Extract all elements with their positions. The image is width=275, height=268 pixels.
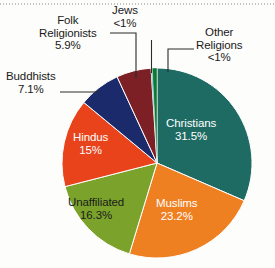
pie-label-jews: Jews <1% bbox=[112, 4, 138, 29]
pie-label-hindus-text: Hindus bbox=[73, 131, 108, 143]
pie-label-muslims: Muslims 23.2% bbox=[156, 197, 197, 223]
pie-label-buddhists-text: Buddhists bbox=[6, 70, 56, 82]
pie-label-unaffiliated-text: Unaffiliated bbox=[68, 196, 124, 208]
pie-value-hindus: 15% bbox=[73, 144, 108, 157]
pie-label-folk-religionists-line2: Religionists bbox=[39, 27, 97, 39]
pie-label-folk-religionists: Folk Religionists 5.9% bbox=[39, 14, 97, 52]
pie-label-folk-religionists-line1: Folk bbox=[57, 14, 78, 26]
pie-value-unaffiliated: 16.3% bbox=[68, 209, 124, 222]
pie-label-other-religions-line1: Other bbox=[205, 26, 233, 38]
pie-value-christians: 31.5% bbox=[166, 130, 216, 143]
pie-label-unaffiliated: Unaffiliated 16.3% bbox=[68, 196, 124, 222]
pie-label-christians-text: Christians bbox=[166, 117, 216, 129]
pie-label-muslims-text: Muslims bbox=[156, 197, 197, 209]
pie-value-folk-religionists: 5.9% bbox=[39, 39, 97, 52]
pie-label-jews-text: Jews bbox=[112, 4, 138, 16]
pie-value-other-religions: <1% bbox=[196, 51, 242, 64]
pie-value-muslims: 23.2% bbox=[156, 210, 197, 223]
leader-line-other-religions bbox=[168, 49, 194, 72]
pie-label-other-religions: Other Religions <1% bbox=[196, 26, 242, 64]
pie-label-hindus: Hindus 15% bbox=[73, 131, 108, 157]
pie-value-jews: <1% bbox=[112, 17, 138, 30]
pie-label-christians: Christians 31.5% bbox=[166, 117, 216, 143]
pie-value-buddhists: 7.1% bbox=[6, 83, 56, 96]
pie-chart-figure: Folk Religionists 5.9% Jews <1% Other Re… bbox=[0, 0, 275, 268]
pie-label-other-religions-line2: Religions bbox=[196, 39, 242, 51]
pie-label-buddhists: Buddhists 7.1% bbox=[6, 70, 56, 95]
